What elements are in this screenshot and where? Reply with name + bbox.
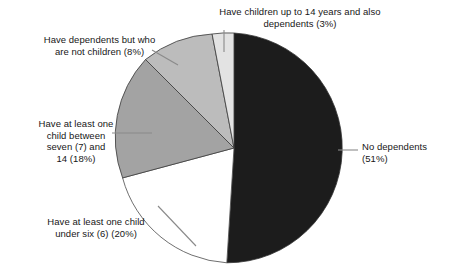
pie-chart: Have children up to 14 years and also de… (0, 0, 453, 275)
pie-label-no-dependents: No dependents (51%) (362, 141, 450, 164)
pie-label-children-and-dependents: Have children up to 14 years and also de… (196, 6, 404, 29)
pie-slice-no-dependents[interactable] (227, 33, 342, 263)
pie-label-seven-to-14: Have at least one child between seven (7… (6, 118, 146, 164)
pie-label-under-six: Have at least one child under six (6) (2… (18, 216, 174, 239)
pie-label-dependents-not-children: Have dependents but who are not children… (12, 34, 187, 57)
